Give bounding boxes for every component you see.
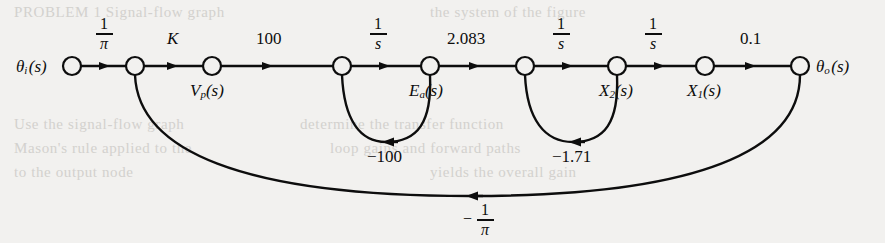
node-label-X1: X1(s)	[687, 82, 721, 100]
node-label-Ea: Ea(s)	[409, 82, 443, 100]
node-label-Vp: Vp(s)	[190, 82, 224, 100]
node-label-X2: X2(s)	[599, 82, 633, 100]
node-Vp[interactable]	[203, 57, 221, 75]
node-n6[interactable]	[516, 57, 534, 75]
signal-flow-graph-figure: PROBLEM 1 Signal-flow graph the system o…	[0, 0, 885, 243]
gain-label-minus-171: −1.71	[552, 148, 591, 165]
gain-label-01: 0.1	[740, 30, 761, 47]
gain-label-minus-one-over-pi: − 1 π	[474, 202, 496, 238]
gain-label-minus-100: −100	[367, 148, 402, 165]
gain-label-K: K	[167, 30, 178, 47]
node-n4[interactable]	[333, 57, 351, 75]
gain-label-2083: 2.083	[447, 30, 485, 47]
gain-label-one-over-s-1: 1 s	[367, 16, 389, 52]
node-theta_i[interactable]	[63, 57, 81, 75]
gain-label-one-over-s-2: 1 s	[550, 16, 572, 52]
node-n2[interactable]	[126, 57, 144, 75]
gain-label-one-over-pi: 1 π	[93, 16, 115, 52]
gain-label-one-over-s-3: 1 s	[642, 16, 664, 52]
node-label-theta_i: θi (s)	[16, 58, 47, 76]
node-X1[interactable]	[696, 57, 714, 75]
node-X2[interactable]	[608, 57, 626, 75]
node-theta_o[interactable]	[791, 57, 809, 75]
node-label-theta_o: θo (s)	[816, 58, 849, 76]
gain-label-100: 100	[256, 30, 282, 47]
node-Ea[interactable]	[421, 57, 439, 75]
